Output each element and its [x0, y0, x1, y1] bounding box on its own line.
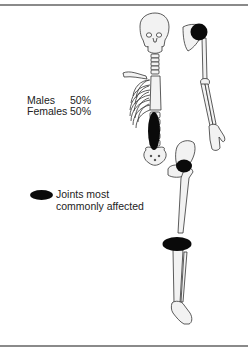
hand-icon [209, 124, 225, 150]
knee-highlight-icon [163, 237, 192, 251]
cervical-spine-icon [151, 54, 159, 74]
thoracic-spine-icon [150, 76, 161, 110]
lumbar-spine-highlight-icon [148, 112, 160, 150]
skull-icon [140, 13, 169, 53]
shoulder-highlight-icon [191, 24, 208, 41]
foot-icon [171, 301, 191, 324]
hip-highlight-icon [176, 160, 192, 173]
ribcage-icon [130, 80, 150, 128]
humerus-icon [202, 38, 207, 80]
sacrum-icon [144, 147, 166, 165]
skeleton-diagram [0, 0, 248, 352]
clavicle-icon [123, 72, 147, 79]
